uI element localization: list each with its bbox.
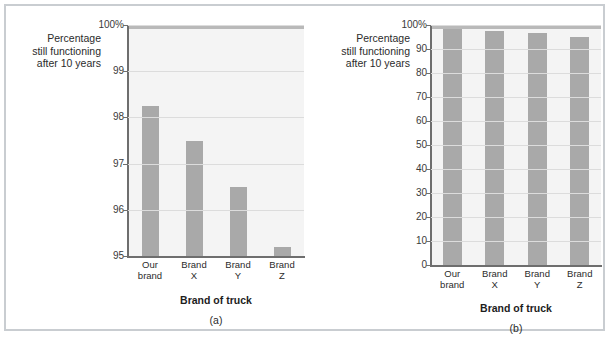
panels-container: Percentage still functioning after 10 ye… — [6, 6, 603, 329]
y-axis-title-line-1: Percentage — [315, 32, 410, 45]
x-tick-label-line-1: Our — [431, 268, 474, 279]
y-tick-label: 80 — [387, 68, 427, 78]
y-axis-title-line-2: still functioning — [16, 45, 101, 58]
gridline — [431, 217, 601, 218]
gridline — [431, 169, 601, 170]
x-axis-line-b — [430, 265, 602, 267]
y-tick-label: 10 — [387, 236, 427, 246]
panel-caption-a: (a) — [127, 314, 305, 326]
bar — [274, 247, 291, 256]
gridline — [431, 241, 601, 242]
gridline — [128, 210, 304, 211]
y-tick-mark — [426, 25, 430, 26]
y-tick-label: 30 — [387, 188, 427, 198]
y-tick-mark — [426, 169, 430, 170]
gridline — [128, 164, 304, 165]
y-tick-mark — [426, 241, 430, 242]
gridline — [431, 145, 601, 146]
y-axis-title-line-1: Percentage — [16, 32, 101, 45]
x-tick-label: BrandZ — [260, 259, 304, 281]
chart-panel-a: Percentage still functioning after 10 ye… — [6, 6, 313, 329]
y-tick-mark — [426, 217, 430, 218]
bar — [485, 31, 504, 265]
x-tick-label: Ourbrand — [431, 268, 474, 290]
bar — [142, 106, 159, 256]
x-tick-label-line-1: Brand — [474, 268, 517, 279]
x-tick-label-line-1: Brand — [559, 268, 602, 279]
x-axis-title-b: Brand of truck — [430, 302, 602, 314]
x-tick-label-line-2: Z — [559, 279, 602, 290]
y-tick-mark — [123, 210, 127, 211]
y-tick-label: 99 — [84, 66, 124, 76]
x-tick-label-line-2: X — [172, 270, 216, 281]
x-tick-label-line-1: Brand — [516, 268, 559, 279]
y-tick-mark — [123, 256, 127, 257]
x-tick-label: Ourbrand — [128, 259, 172, 281]
figure-frame: Percentage still functioning after 10 ye… — [4, 4, 605, 331]
x-tick-label-line-2: Y — [216, 270, 260, 281]
bar — [186, 141, 203, 257]
gridline — [431, 121, 601, 122]
y-tick-mark — [426, 97, 430, 98]
x-tick-label-line-1: Our — [128, 259, 172, 270]
y-tick-mark — [426, 73, 430, 74]
x-tick-label: BrandZ — [559, 268, 602, 290]
x-tick-label-line-1: Brand — [260, 259, 304, 270]
y-tick-mark — [426, 265, 430, 266]
y-tick-mark — [123, 25, 127, 26]
y-tick-label: 90 — [387, 44, 427, 54]
y-tick-mark — [426, 145, 430, 146]
gridline — [431, 25, 601, 26]
y-tick-label: 70 — [387, 92, 427, 102]
y-tick-label: 100% — [84, 20, 124, 30]
x-tick-label-line-1: Brand — [216, 259, 260, 270]
gridline — [431, 97, 601, 98]
y-tick-label: 20 — [387, 212, 427, 222]
bar — [230, 187, 247, 256]
gridline — [431, 49, 601, 50]
bar — [443, 29, 462, 265]
gridline — [128, 71, 304, 72]
y-tick-label: 95 — [84, 251, 124, 261]
panel-caption-b: (b) — [430, 322, 602, 334]
x-axis-title-a: Brand of truck — [127, 294, 305, 306]
bar — [570, 37, 589, 265]
chart-panel-b: Percentage still functioning after 10 ye… — [313, 6, 607, 329]
y-tick-label: 40 — [387, 164, 427, 174]
x-tick-label: BrandX — [172, 259, 216, 281]
y-axis-title-a: Percentage still functioning after 10 ye… — [16, 32, 101, 70]
y-tick-mark — [123, 71, 127, 72]
x-tick-label: BrandY — [516, 268, 559, 290]
gridline — [128, 25, 304, 26]
y-tick-label: 100% — [387, 20, 427, 30]
y-tick-mark — [426, 193, 430, 194]
y-tick-label: 0 — [387, 260, 427, 270]
y-tick-label: 60 — [387, 116, 427, 126]
y-tick-label: 98 — [84, 112, 124, 122]
x-axis-line-a — [127, 256, 305, 258]
y-tick-mark — [426, 121, 430, 122]
y-tick-label: 97 — [84, 159, 124, 169]
y-axis-line-a — [127, 25, 129, 257]
x-tick-label-line-2: brand — [431, 279, 474, 290]
gridline — [128, 117, 304, 118]
x-tick-label-line-2: Y — [516, 279, 559, 290]
x-tick-label-line-1: Brand — [172, 259, 216, 270]
y-tick-mark — [123, 164, 127, 165]
x-tick-label: BrandY — [216, 259, 260, 281]
y-tick-label: 96 — [84, 205, 124, 215]
x-tick-label: BrandX — [474, 268, 517, 290]
y-tick-mark — [426, 49, 430, 50]
x-tick-label-line-2: brand — [128, 270, 172, 281]
x-tick-label-line-2: Z — [260, 270, 304, 281]
y-tick-mark — [123, 117, 127, 118]
gridline — [431, 193, 601, 194]
bar — [528, 33, 547, 265]
x-tick-label-line-2: X — [474, 279, 517, 290]
y-tick-label: 50 — [387, 140, 427, 150]
gridline — [431, 73, 601, 74]
